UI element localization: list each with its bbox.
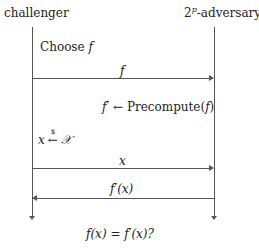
message-x-arrowhead-icon	[209, 165, 214, 171]
message-f-label: f	[120, 64, 124, 78]
challenger-lifeline	[32, 27, 33, 217]
choose-text: Choose	[40, 40, 88, 54]
precompute-close: )	[210, 100, 215, 114]
step-choose-f: Choose f	[40, 40, 93, 54]
adversary-label-base: 2	[184, 6, 192, 20]
random-sample-arrow-icon: $←	[48, 133, 58, 147]
challenger-lifeline-arrow-icon	[29, 216, 35, 220]
choose-var-f: f	[88, 40, 92, 54]
precompute-lhs: f′	[102, 100, 109, 114]
message-fprime-x-label: f′(x)	[110, 182, 133, 196]
party-adversary-label: 2p-adversary	[184, 6, 259, 20]
message-x-arrow	[32, 168, 209, 169]
step-precompute: f′ ← Precompute(f)	[102, 100, 214, 114]
party-challenger-label: challenger	[4, 6, 69, 20]
sample-set: 𝒳	[61, 133, 71, 147]
adversary-lifeline-arrow-icon	[211, 216, 217, 220]
dollar-sign: $	[51, 125, 55, 139]
adversary-label-suffix: -adversary	[197, 6, 259, 20]
message-fprime-x-arrowhead-icon	[32, 195, 37, 201]
adversary-lifeline	[214, 27, 215, 217]
message-f-arrow	[32, 78, 209, 79]
message-fprime-x-arrow	[37, 198, 214, 199]
message-x-label: x	[119, 154, 126, 168]
message-f-arrowhead-icon	[209, 75, 214, 81]
precompute-func: Precompute(	[127, 100, 205, 114]
final-check: f(x) = f′(x)?	[86, 227, 154, 241]
assign-arrow-icon: ←	[113, 100, 123, 114]
step-sample-x: x$←𝒳	[38, 133, 71, 147]
sample-lhs: x	[38, 133, 45, 147]
